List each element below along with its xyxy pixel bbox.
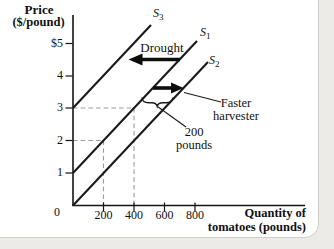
x-axis-title: Quantity of tomatoes (pounds) [178, 207, 306, 234]
s1-subscript: 1 [206, 31, 211, 41]
x-axis-title-line2: tomatoes (pounds) [208, 220, 306, 234]
y-tick-2: 2 [30, 134, 63, 147]
pointer-200-pounds [158, 107, 187, 128]
qty-line2: pounds [176, 138, 212, 152]
curve-label-s3: S3 [153, 7, 164, 22]
y-tick-3: 3 [30, 101, 63, 114]
supply-curve-s3 [73, 25, 151, 108]
faster-harvester-label: Faster harvester [204, 97, 268, 122]
curve-label-s1: S1 [200, 26, 211, 41]
right-arrowhead-icon [171, 83, 184, 94]
200-pounds-label: 200 pounds [170, 126, 218, 151]
faster-line2: harvester [213, 109, 259, 123]
x-axis-title-line1: Quantity of [245, 206, 306, 220]
left-arrowhead-icon [129, 54, 143, 66]
y-tick-5: $5 [30, 37, 63, 50]
y-tick-4: 4 [30, 69, 63, 82]
s2-subscript: 2 [215, 59, 220, 69]
s3-subscript: 3 [159, 12, 164, 22]
y-axis-ticks [66, 44, 73, 174]
origin-label: 0 [40, 206, 60, 219]
drought-label: Drought [126, 41, 198, 55]
y-tick-1: 1 [30, 166, 63, 179]
curve-label-s2: S2 [209, 54, 220, 69]
dashed-guides [73, 108, 134, 206]
drought-shift-arrow [129, 54, 181, 66]
y-axis-title-line2: ($/pound) [1, 16, 76, 29]
